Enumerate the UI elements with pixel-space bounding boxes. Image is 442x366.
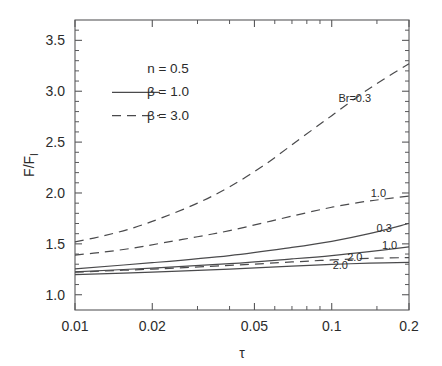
y-tick-label: 2.0: [46, 185, 66, 201]
curve-label: Br=0.3: [338, 92, 371, 104]
legend-label: β = 3.0: [147, 108, 189, 123]
x-tick-label: 0.02: [139, 318, 166, 334]
curve-label: 2.0: [333, 259, 348, 271]
x-axis-title: τ: [239, 345, 245, 361]
line-chart-plot: 0.010.020.050.10.21.01.52.02.53.03.5 Br=…: [0, 0, 442, 366]
chart-background: [0, 0, 442, 366]
chart-figure: 0.010.020.050.10.21.01.52.02.53.03.5 Br=…: [0, 0, 442, 366]
y-tick-label: 3.0: [46, 83, 66, 99]
y-tick-label: 2.5: [46, 134, 66, 150]
y-tick-label: 1.0: [46, 287, 66, 303]
legend-label: β = 1.0: [147, 84, 189, 99]
y-tick-label: 3.5: [46, 32, 66, 48]
x-tick-label: 0.01: [61, 318, 88, 334]
x-tick-label: 0.05: [241, 318, 268, 334]
curve-label: 1.0: [371, 187, 386, 199]
curve-label: 2.0: [347, 251, 362, 263]
curve-label: 1.0: [382, 239, 397, 251]
x-tick-label: 0.1: [322, 318, 342, 334]
legend-label: n = 0.5: [147, 61, 189, 76]
y-axis-title-subscript: I: [29, 153, 40, 156]
x-tick-label: 0.2: [399, 318, 419, 334]
curve-label: 0.3: [376, 222, 391, 234]
y-tick-label: 1.5: [46, 236, 66, 252]
